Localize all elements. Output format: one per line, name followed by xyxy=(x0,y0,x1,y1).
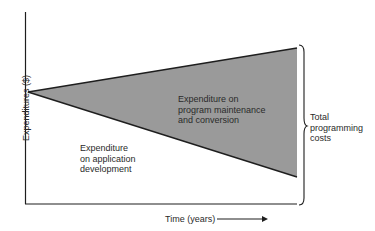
maintenance-label-line: Expenditure on xyxy=(178,94,266,105)
x-axis-label: Time (years) xyxy=(165,214,215,225)
total-label-line: Total xyxy=(310,112,363,123)
total-costs-label: Total programming costs xyxy=(310,112,363,144)
development-label-line: development xyxy=(80,164,136,175)
total-label-line: costs xyxy=(310,133,363,144)
maintenance-label: Expenditure on program maintenance and c… xyxy=(178,94,266,126)
development-label-line: Expenditure xyxy=(80,143,136,154)
total-label-line: programming xyxy=(310,123,363,134)
maintenance-label-line: and conversion xyxy=(178,115,266,126)
brace xyxy=(299,45,307,205)
arrow-head-icon xyxy=(262,216,268,222)
maintenance-label-line: program maintenance xyxy=(178,105,266,116)
y-axis-label: Expenditures ($) xyxy=(21,68,31,148)
development-label: Expenditure on application development xyxy=(80,143,136,175)
development-label-line: on application xyxy=(80,154,136,165)
